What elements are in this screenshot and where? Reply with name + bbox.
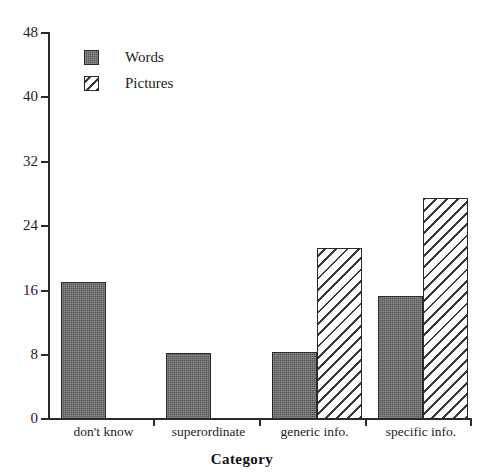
y-tick-label-40: 40 xyxy=(8,89,38,104)
bar-chart: 48 40 32 24 16 8 0 don't know superordin… xyxy=(0,0,484,474)
legend-label-pictures: Pictures xyxy=(125,76,173,91)
x-axis-title: Category xyxy=(0,451,484,468)
y-tick-32 xyxy=(41,161,49,163)
y-tick-16 xyxy=(41,290,49,292)
legend: Words Pictures xyxy=(84,44,173,96)
y-tick-label-0: 0 xyxy=(8,411,38,426)
y-tick-label-24: 24 xyxy=(8,218,38,233)
bar-pictures-generic-info xyxy=(317,248,362,419)
y-tick-48 xyxy=(41,32,49,34)
y-tick-40 xyxy=(41,96,49,98)
y-tick-label-48: 48 xyxy=(8,25,38,40)
x-category-label-generic-info: generic info. xyxy=(252,424,377,440)
y-tick-8 xyxy=(41,354,49,356)
y-tick-24 xyxy=(41,225,49,227)
x-category-label-specific-info: specific info. xyxy=(360,424,482,440)
solid-dark-square-icon xyxy=(84,50,99,65)
y-tick-label-32: 32 xyxy=(8,154,38,169)
bar-words-specific-info xyxy=(378,296,423,419)
legend-item-words: Words xyxy=(84,44,173,70)
bar-words-superordinate xyxy=(166,353,211,419)
bar-words-dont-know xyxy=(61,282,106,419)
legend-item-pictures: Pictures xyxy=(84,70,173,96)
bar-words-generic-info xyxy=(272,352,317,419)
y-tick-label-16: 16 xyxy=(8,283,38,298)
legend-label-words: Words xyxy=(125,50,164,65)
bar-pictures-specific-info xyxy=(423,198,468,419)
y-tick-label-8: 8 xyxy=(8,347,38,362)
diagonal-hatch-square-icon xyxy=(84,76,99,91)
y-tick-0 xyxy=(41,418,49,420)
